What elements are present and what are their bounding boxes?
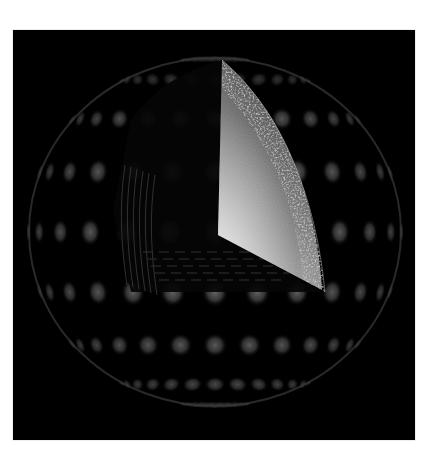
lobe: [323, 107, 344, 131]
lobe: [247, 70, 270, 90]
lobe: [298, 106, 322, 133]
lobe: [80, 218, 101, 247]
lobe: [204, 376, 226, 392]
lobe: [34, 220, 44, 244]
lobe: [267, 375, 288, 395]
render-panel: Sphere with grid of glowing lobes and a …: [13, 30, 415, 440]
lobe: [236, 332, 263, 359]
lobe: [160, 374, 183, 394]
lobe: [107, 106, 131, 133]
lobe: [323, 333, 344, 357]
lobe: [167, 332, 194, 359]
lobe: [269, 331, 296, 358]
lobe: [60, 279, 80, 306]
lobe: [52, 219, 68, 245]
lobe: [226, 375, 249, 394]
lobe: [107, 332, 131, 359]
sphere-render: [13, 30, 415, 440]
lobe: [362, 219, 378, 245]
lobe: [203, 333, 228, 358]
lobe: [86, 333, 107, 357]
lobe: [181, 375, 204, 394]
lobe: [135, 331, 162, 358]
lobe: [386, 220, 396, 244]
lobe: [350, 279, 370, 306]
lobe: [267, 70, 288, 90]
lobe: [142, 70, 163, 90]
lobe: [86, 157, 110, 187]
lobe: [86, 107, 107, 131]
lobe: [86, 277, 110, 307]
lobe: [320, 157, 344, 187]
lobe: [247, 374, 270, 394]
lobe: [329, 218, 350, 247]
lobe: [298, 332, 322, 359]
lobe: [350, 158, 370, 185]
lobe: [142, 375, 163, 395]
lobe: [60, 158, 80, 185]
